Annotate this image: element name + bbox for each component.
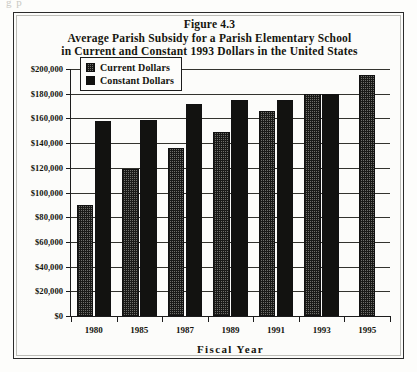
figure-number: Figure 4.3 xyxy=(14,18,405,32)
x-axis-tick xyxy=(390,316,391,322)
y-axis-tick xyxy=(66,217,71,218)
figure-title-block: Figure 4.3 Average Parish Subsidy for a … xyxy=(14,18,405,59)
y-axis-label: $40,000 xyxy=(35,262,63,272)
bar-current-dollars-1987 xyxy=(168,148,185,316)
y-axis-tick xyxy=(66,69,71,70)
y-axis-label: $180,000 xyxy=(31,89,63,99)
y-axis-label: $200,000 xyxy=(31,64,63,74)
figure-title-1: Average Parish Subsidy for a Parish Elem… xyxy=(14,32,405,46)
legend-item-constant: Constant Dollars xyxy=(86,74,174,87)
x-axis-label-1987: 1987 xyxy=(176,325,194,335)
x-axis-tick xyxy=(299,316,300,322)
x-axis-tick xyxy=(71,316,72,322)
legend-label-constant-dollars: Constant Dollars xyxy=(100,75,174,86)
bar-current-dollars-1995 xyxy=(359,75,376,316)
bar-constant-dollars-1985 xyxy=(140,120,157,316)
y-axis-label: $120,000 xyxy=(31,163,63,173)
bar-constant-dollars-1993 xyxy=(322,94,339,316)
bar-constant-dollars-1987 xyxy=(186,104,203,316)
figure-frame: Figure 4.3 Average Parish Subsidy for a … xyxy=(13,12,404,359)
x-axis-title: Fiscal Year xyxy=(71,343,390,355)
plot-area: $200,000$180,000$160,000$140,000$120,000… xyxy=(70,69,390,317)
legend-swatch-current-dollars xyxy=(86,63,95,72)
y-axis-tick xyxy=(66,118,71,119)
y-axis-tick xyxy=(66,267,71,268)
legend-label-current-dollars: Current Dollars xyxy=(100,62,170,73)
y-axis-tick xyxy=(66,94,71,95)
bar-constant-dollars-1991 xyxy=(277,100,294,316)
x-axis-tick xyxy=(208,316,209,322)
x-axis-tick xyxy=(253,316,254,322)
bar-current-dollars-1985 xyxy=(122,169,139,316)
bar-constant-dollars-1989 xyxy=(231,100,248,316)
bar-current-dollars-1991 xyxy=(259,111,276,316)
y-axis-tick xyxy=(66,291,71,292)
y-axis-label: $60,000 xyxy=(35,237,63,247)
x-axis-label-1980: 1980 xyxy=(85,325,103,335)
figure-title-2: in Current and Constant 1993 Dollars in … xyxy=(14,45,405,59)
y-axis-label: $160,000 xyxy=(31,113,63,123)
y-axis-tick xyxy=(66,193,71,194)
x-axis-label-1989: 1989 xyxy=(222,325,240,335)
y-axis-label: $100,000 xyxy=(31,188,63,198)
bar-current-dollars-1980 xyxy=(77,205,94,316)
bar-constant-dollars-1980 xyxy=(95,121,112,316)
legend-item-current: Current Dollars xyxy=(86,61,174,74)
x-axis-tick xyxy=(162,316,163,322)
scan-artifact-text: g p xyxy=(6,0,23,8)
x-axis-tick xyxy=(117,316,118,322)
x-axis-label-1985: 1985 xyxy=(130,325,148,335)
y-axis-label: $0 xyxy=(54,311,63,321)
y-axis-label: $80,000 xyxy=(35,212,63,222)
y-axis-tick xyxy=(66,168,71,169)
bar-current-dollars-1993 xyxy=(304,94,321,316)
figure-screenshot: g p Figure 4.3 Average Parish Subsidy fo… xyxy=(0,0,417,372)
chart-legend: Current Dollars Constant Dollars xyxy=(80,57,182,91)
y-axis-tick xyxy=(66,143,71,144)
bar-current-dollars-1989 xyxy=(213,132,230,316)
y-gridline xyxy=(71,94,390,95)
x-axis-tick xyxy=(344,316,345,322)
y-axis-tick xyxy=(66,242,71,243)
x-axis-label-1995: 1995 xyxy=(358,325,376,335)
legend-swatch-constant-dollars xyxy=(86,76,95,85)
y-axis-label: $20,000 xyxy=(35,286,63,296)
x-axis-label-1993: 1993 xyxy=(313,325,331,335)
y-axis-label: $140,000 xyxy=(31,138,63,148)
x-axis-label-1991: 1991 xyxy=(267,325,285,335)
